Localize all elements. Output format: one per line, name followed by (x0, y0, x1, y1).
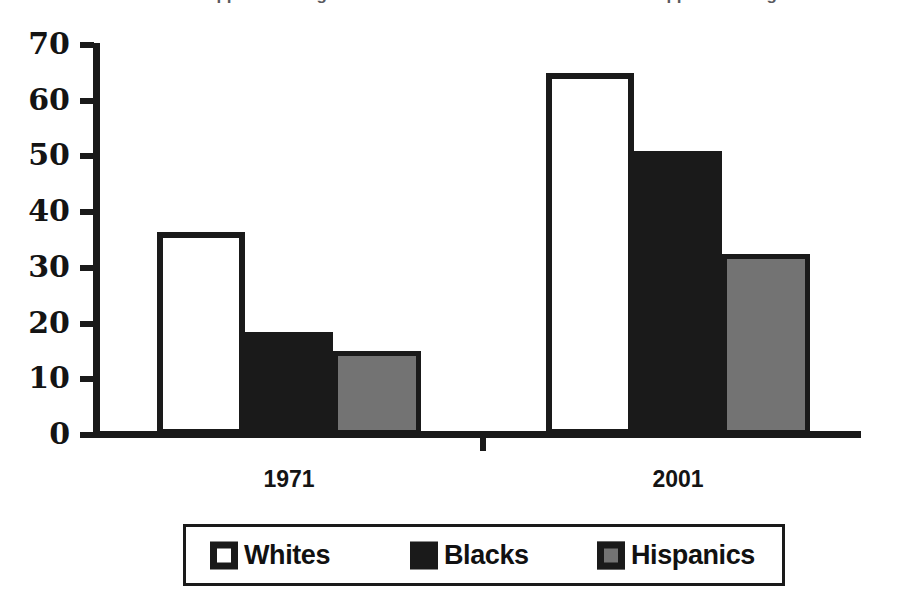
black-square-swatch (410, 541, 438, 569)
legend-item-whites[interactable]: Whites (210, 540, 330, 571)
legend-item-blacks[interactable]: Blacks (410, 540, 529, 571)
y-axis-tick (80, 432, 94, 438)
x-axis-category-separator-tick (480, 438, 486, 451)
white-square-swatch (210, 541, 238, 569)
y-axis-tick (80, 321, 94, 327)
y-axis-tick (80, 265, 94, 271)
bar-blacks-2001 (634, 151, 722, 435)
x-axis-category-label-2001: 2001 (578, 466, 778, 493)
y-axis-tick (80, 209, 94, 215)
x-axis-category-label-1971: 1971 (189, 466, 389, 493)
y-axis-tick-label: 50 (8, 140, 70, 170)
chart-legend: WhitesBlacksHispanics (183, 524, 785, 586)
bar-blacks-1971 (245, 332, 333, 435)
y-axis-tick-label: 30 (8, 252, 70, 282)
y-axis-tick-label: 70 (8, 29, 70, 59)
y-axis-tick-label: 20 (8, 308, 70, 338)
bar-hispanics-1971 (333, 351, 421, 435)
y-axis-tick-label: 40 (8, 196, 70, 226)
bar-hispanics-2001 (722, 254, 810, 435)
bar-whites-2001 (546, 73, 634, 435)
legend-item-label: Whites (244, 540, 330, 571)
y-axis-tick-label: 60 (8, 85, 70, 115)
bar-whites-1971 (157, 232, 245, 435)
legend-item-hispanics[interactable]: Hispanics (597, 540, 755, 571)
legend-item-label: Blacks (444, 540, 529, 571)
legend-item-label: Hispanics (631, 540, 755, 571)
y-axis-tick-label: 10 (8, 363, 70, 393)
y-axis-tick (80, 98, 94, 104)
y-axis-line (93, 43, 100, 437)
y-axis-tick (80, 376, 94, 382)
y-axis-tick-label: 0 (8, 419, 70, 449)
y-axis-tick (80, 153, 94, 159)
gray-square-swatch (597, 541, 625, 569)
y-axis-tick (80, 42, 94, 48)
grouped-bar-chart: 706050403020100 19712001 WhitesBlacksHis… (0, 0, 904, 612)
